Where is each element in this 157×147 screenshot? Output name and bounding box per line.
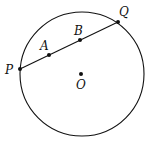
point-o [79,72,83,76]
circle-diagram: PABQO [0,0,157,147]
label-o: O [76,78,86,92]
label-q: Q [119,5,129,19]
label-b: B [73,24,83,38]
chord-pq [20,22,118,69]
point-a [47,53,51,57]
label-a: A [39,39,49,53]
label-p: P [4,63,14,77]
point-p [18,67,22,71]
point-q [116,20,120,24]
point-b [78,38,82,42]
